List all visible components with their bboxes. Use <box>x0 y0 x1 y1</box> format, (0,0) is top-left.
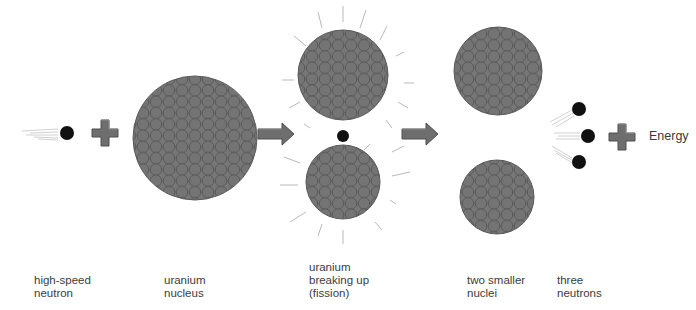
label-fission: uranium breaking up (fission) <box>309 261 369 300</box>
plus-icon <box>92 120 118 146</box>
smaller-nucleus-bottom <box>460 160 534 234</box>
label-high-speed-neutron: high-speed neutron <box>34 274 91 300</box>
speed-lines-icon <box>550 110 580 164</box>
neutron-icon <box>60 126 74 140</box>
neutron-icon <box>337 130 349 142</box>
fission-stage <box>280 6 414 244</box>
speed-lines-icon <box>22 129 58 140</box>
three-neutrons <box>550 102 595 169</box>
label-uranium-nucleus: uranium nucleus <box>164 274 206 300</box>
smaller-nuclei <box>454 27 542 234</box>
arrow-right-icon <box>258 123 294 145</box>
neutron-icon <box>581 129 595 143</box>
energy-label: Energy <box>649 129 689 143</box>
plus-icon <box>609 124 635 150</box>
fission-nucleus-top <box>298 30 388 120</box>
label-three-neutrons: three neutrons <box>557 274 602 300</box>
arrow-right-icon <box>402 123 438 145</box>
incoming-neutron <box>22 126 74 140</box>
uranium-nucleus <box>133 76 257 200</box>
smaller-nucleus-top <box>454 27 542 115</box>
neutron-icon <box>572 155 586 169</box>
neutron-icon <box>572 102 586 116</box>
fission-nucleus-bottom <box>306 145 380 219</box>
label-two-smaller-nuclei: two smaller nuclei <box>467 274 525 300</box>
